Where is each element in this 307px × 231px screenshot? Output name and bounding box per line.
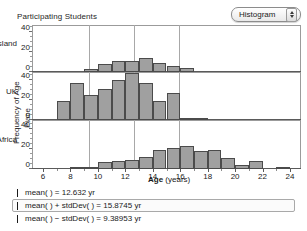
bar-group [32, 73, 301, 120]
legend-item-mean-minus-sd[interactable]: mean( ) − stdDev( ) = 9.38953 yr [12, 212, 295, 225]
legend: mean( ) = 12.632 yrmean( ) + stdDev( ) =… [12, 186, 295, 225]
vertical-line-marker-icon [17, 189, 18, 197]
x-tick-label: 12 [121, 172, 130, 181]
histogram-bar[interactable] [139, 157, 153, 169]
x-axis: 681012141618202224 [32, 169, 301, 185]
histogram-bar[interactable] [125, 73, 139, 120]
histogram-bar[interactable] [167, 93, 181, 120]
histogram-bar[interactable] [112, 61, 126, 72]
histogram-bar[interactable] [84, 69, 98, 72]
histogram-bar[interactable] [153, 63, 167, 72]
histogram-bar[interactable] [125, 61, 139, 72]
x-tick-label: 22 [258, 172, 267, 181]
legend-item-label: mean( ) − stdDev( ) = 9.38953 yr [25, 214, 141, 223]
x-minor-tick [249, 169, 250, 171]
x-tick-label: 10 [93, 172, 102, 181]
panel-label: Queensland [0, 39, 17, 48]
x-tick-label: 20 [231, 172, 240, 181]
histogram-bar[interactable] [194, 118, 208, 120]
histogram-bar[interactable] [153, 150, 167, 169]
stepper-up-down-icon[interactable] [286, 8, 297, 22]
x-tick-label: 8 [68, 172, 72, 181]
histogram-bar[interactable] [180, 118, 194, 120]
panel-label: UK [6, 87, 17, 96]
plot-area: Queensland02040UK02040South Africa02040 [32, 25, 301, 169]
x-minor-tick [167, 169, 168, 171]
legend-item-mean[interactable]: mean( ) = 12.632 yr [12, 186, 295, 199]
histogram-bar[interactable] [221, 158, 235, 169]
x-minor-tick [276, 169, 277, 171]
histogram-bar[interactable] [167, 66, 181, 72]
histogram-bar[interactable] [180, 68, 194, 72]
panel-label: South Africa [0, 135, 17, 144]
bar-group [32, 25, 301, 72]
histogram-bar[interactable] [139, 58, 153, 72]
x-minor-tick [112, 169, 113, 171]
x-tick-label: 18 [203, 172, 212, 181]
x-minor-tick [194, 169, 195, 171]
x-minor-tick [221, 169, 222, 171]
panel-uk: UK02040 [32, 73, 301, 121]
panel-south-africa: South Africa02040 [32, 121, 301, 169]
histogram-bar[interactable] [125, 160, 139, 169]
x-minor-tick [57, 169, 58, 171]
histogram-bar[interactable] [84, 95, 98, 120]
histogram-bar[interactable] [153, 101, 167, 120]
histogram-bar[interactable] [180, 146, 194, 169]
histogram-bar[interactable] [194, 151, 208, 169]
x-minor-tick [84, 169, 85, 171]
bar-group [32, 121, 301, 169]
histogram-bar[interactable] [98, 64, 112, 72]
histogram-bar[interactable] [167, 148, 181, 169]
histogram-window: Participating Students Histogram Frequen… [0, 0, 307, 231]
x-minor-tick [139, 169, 140, 171]
histogram-bar[interactable] [70, 83, 84, 120]
histogram-bar[interactable] [139, 83, 153, 120]
vertical-line-marker-icon [17, 202, 18, 210]
page-title: Participating Students [17, 12, 97, 21]
x-tick-label: 24 [286, 172, 295, 181]
panel-queensland: Queensland02040 [32, 25, 301, 73]
histogram-bar[interactable] [98, 89, 112, 120]
histogram-bar[interactable] [112, 161, 126, 169]
histogram-bar[interactable] [249, 161, 263, 169]
legend-item-label: mean( ) = 12.632 yr [25, 188, 95, 197]
view-type-select[interactable]: Histogram [231, 7, 301, 22]
histogram-bar[interactable] [98, 162, 112, 169]
legend-item-label: mean( ) + stdDev( ) = 15.8745 yr [25, 201, 141, 210]
view-type-select-value: Histogram [239, 10, 279, 19]
legend-item-mean-plus-sd[interactable]: mean( ) + stdDev( ) = 15.8745 yr [12, 199, 295, 212]
histogram-bar[interactable] [57, 101, 71, 120]
x-tick-label: 14 [148, 172, 157, 181]
x-tick-label: 16 [176, 172, 185, 181]
histogram-bar[interactable] [112, 80, 126, 120]
x-tick-label: 6 [41, 172, 45, 181]
vertical-line-marker-icon [17, 215, 18, 223]
histogram-bar[interactable] [208, 150, 222, 169]
